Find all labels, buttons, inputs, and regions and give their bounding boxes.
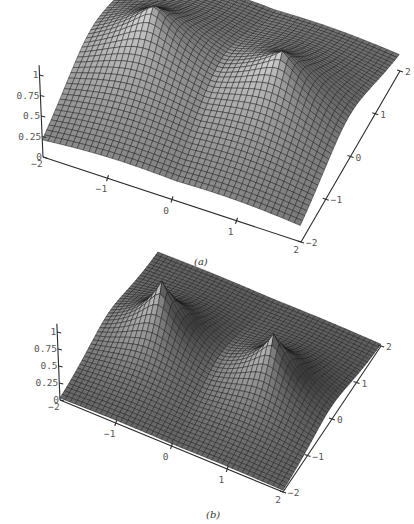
- z-tick: [40, 75, 44, 76]
- z-tick-label: 0.5: [40, 360, 57, 371]
- surface-plot-a: 00.250.50.751−2−1012−2−1012: [16, 0, 410, 255]
- z-tick: [40, 96, 44, 97]
- y-tick-label: 2: [405, 66, 411, 77]
- x-tick-label: 0: [163, 451, 169, 462]
- z-tick-label: 0.5: [23, 110, 40, 121]
- z-tick: [59, 366, 63, 367]
- y-tick-label: 1: [380, 109, 386, 120]
- y-tick-label: 0: [356, 152, 362, 163]
- x-tick-label: 2: [275, 494, 281, 505]
- z-tick-label: 0.75: [16, 90, 39, 101]
- z-tick-label: 1: [33, 69, 39, 80]
- y-tick-label: 0: [337, 414, 343, 425]
- z-tick-label: 0.25: [35, 377, 58, 388]
- z-tick: [58, 349, 62, 350]
- figure-canvas: 00.250.50.751−2−1012−2−1012 00.250.50.75…: [0, 0, 414, 524]
- x-tick-label: −1: [104, 428, 116, 439]
- caption-b: (b): [206, 509, 220, 520]
- x-tick-label: −2: [48, 401, 59, 412]
- x-tick-label: −2: [31, 158, 42, 169]
- z-tick: [43, 157, 47, 158]
- z-tick: [41, 116, 45, 117]
- y-tick-label: 1: [362, 378, 368, 389]
- x-tick-label: 1: [218, 474, 224, 485]
- y-tick-label: −1: [313, 451, 325, 462]
- z-tick: [60, 400, 64, 401]
- y-tick-label: 2: [386, 341, 392, 352]
- y-tick-label: −1: [331, 194, 343, 205]
- caption-a: (a): [194, 256, 208, 267]
- x-tick-label: 2: [293, 244, 299, 255]
- z-tick-label: 0.75: [34, 343, 57, 354]
- y-tick-label: −2: [306, 237, 317, 248]
- y-tick-label: −2: [288, 487, 299, 498]
- z-tick: [57, 332, 61, 333]
- x-tick-label: 1: [228, 226, 234, 237]
- z-tick-label: 1: [50, 326, 56, 337]
- x-tick-label: −1: [96, 183, 108, 194]
- z-tick-label: 0.25: [18, 131, 41, 142]
- surface-mesh-b: [60, 252, 381, 490]
- z-tick: [59, 383, 63, 384]
- surface-plot-b: 00.250.50.751−2−1012−2−1012: [34, 252, 392, 505]
- x-tick-label: 0: [163, 205, 169, 216]
